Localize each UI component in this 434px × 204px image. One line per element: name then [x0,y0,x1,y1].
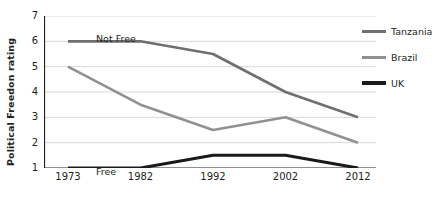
political-freedom-line-chart: Political Freedon rating 1234567 Not Fre… [0,0,434,204]
y-tick-label-6: 6 [24,36,38,46]
legend-item-brazil[interactable]: Brazil [362,44,434,70]
legend-item-tanzania[interactable]: Tanzania [362,18,434,44]
plot-svg [44,16,376,168]
series-line-tanzania [68,41,358,117]
annotation-not-free: Not Free [96,33,136,44]
x-tick-label-1982: 1982 [128,172,153,182]
y-tick-label-4: 4 [24,87,38,97]
legend-label: Tanzania [391,26,432,37]
legend-label: Brazil [391,52,418,63]
y-axis-tick-labels: 1234567 [22,16,38,168]
legend-label: UK [391,78,404,89]
y-tick-label-3: 3 [24,112,38,122]
series-lines [68,41,358,168]
x-tick-label-2012: 2012 [345,172,370,182]
x-tick-label-1992: 1992 [200,172,225,182]
chart-legend: TanzaniaBrazilUK [362,18,434,96]
y-tick-label-1: 1 [24,163,38,173]
y-axis-title: Political Freedon rating [0,0,20,204]
x-axis-tick-labels: 19731982199220022012 [44,172,376,188]
legend-item-uk[interactable]: UK [362,70,434,96]
x-tick-label-2002: 2002 [273,172,298,182]
x-tick-label-1973: 1973 [55,172,80,182]
legend-swatch-tanzania-icon [362,30,386,33]
legend-swatch-uk-icon [362,81,386,85]
legend-swatch-brazil-icon [362,56,386,59]
series-line-brazil [68,67,358,143]
y-tick-label-2: 2 [24,138,38,148]
plot-area: Not Free Free [44,16,376,168]
y-tick-label-5: 5 [24,62,38,72]
y-tick-label-7: 7 [24,11,38,21]
gridlines [44,16,376,168]
